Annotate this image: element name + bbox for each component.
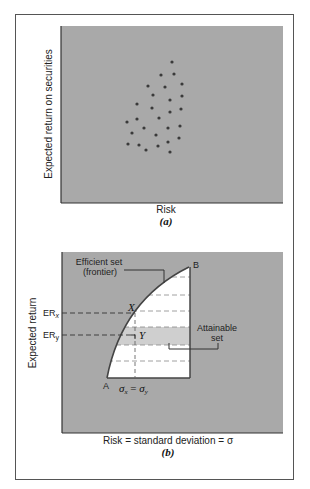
security-dot [156,144,159,147]
security-dot [168,150,171,153]
point-b-label: B [193,260,199,270]
attainable-label: Attainable [197,323,237,333]
point-x-label: X [127,301,136,313]
security-dot [130,131,133,134]
erx-text: ER [43,308,56,318]
panel-caption-a: (a) [160,215,173,228]
security-dot [135,117,138,120]
erx-tick-label: ERx [43,308,60,319]
x-axis-label-a: Risk [156,204,176,215]
security-dot [178,124,181,127]
y-axis-label-a: Expected return on securities [43,49,54,179]
panel-b: Efficient set (frontier) Attainable set … [27,252,283,459]
security-dot [168,110,171,113]
security-dot [166,126,169,129]
security-dot [146,84,149,87]
figure-canvas: Expected return on securities Risk (a) [0,0,310,489]
ery-sub: y [56,334,60,342]
security-dot [125,120,128,123]
equals-sign: = [128,382,140,394]
y-axis-label-b: Expected return [27,298,38,369]
efficient-set-label: Efficient set [76,257,123,267]
security-dot [179,107,182,110]
panel-caption-b: (b) [162,446,175,459]
security-dot [154,133,157,136]
security-dot [144,148,147,151]
plot-area-a [61,26,283,203]
security-dot [135,102,138,105]
set-label: set [211,333,224,343]
security-dot [170,60,173,63]
x-axis-label-b: Risk = standard deviation = σ [103,435,234,446]
security-dot [142,126,145,129]
security-dot [163,85,166,88]
erx-sub: x [55,312,60,319]
panel-a: Expected return on securities Risk (a) [43,26,283,228]
sigma-equality-label: σx = σy [119,382,149,396]
ery-tick-label: ERy [43,330,60,342]
frontier-label: (frontier) [83,267,117,277]
security-dot [150,106,153,109]
point-a-label: A [103,381,109,391]
security-dot [159,73,162,76]
security-dot [172,72,175,75]
security-dot [180,82,183,85]
security-dot [180,94,183,97]
security-dot [157,116,160,119]
security-dot [177,136,180,139]
security-dot [151,93,154,96]
security-dot [137,143,140,146]
security-dot [126,142,129,145]
security-dot [168,98,171,101]
ery-text: ER [43,330,56,340]
security-dot [166,140,169,143]
